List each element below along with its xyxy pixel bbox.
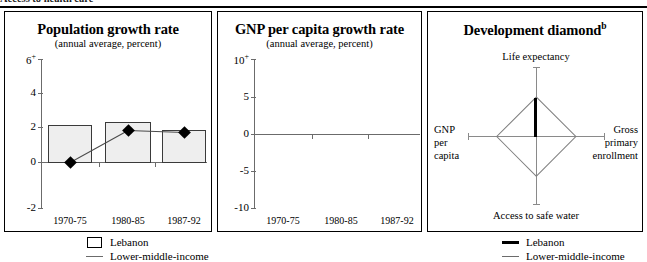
diamond-label-gnp-per-capita: GNP per capita [434,123,459,162]
diamond-label-access-to-safe-water: Access to safe water [428,209,644,222]
diamond-label-enroll-line2: primary [593,136,639,149]
y-tick-label-10: 10+ [220,52,249,66]
x-tick-label-1987-92: 1987-92 [153,215,215,226]
y-tick-neg2 [38,208,43,209]
diamond-label-enroll-line1: Gross [593,123,639,136]
y-tick-label-0: 0 [220,127,249,139]
legend-label-lower-middle-income: Lower-middle-income [526,249,625,262]
box-swatch-icon [78,237,110,248]
y-tick-label-0: 0 [11,155,36,167]
x-tick-label-1980-85: 1980-85 [310,215,372,226]
thin-line-swatch-icon [494,256,526,257]
y-axis-line-population [41,59,42,209]
y-tick-label-2: 2 [11,120,36,132]
lebanon-value-life-expectancy [534,98,537,137]
diamond-label-gnp-line1: GNP [434,123,459,136]
x-axis-line-gnp [254,134,420,135]
thick-line-swatch-icon [494,241,526,244]
diamond-label-life-expectancy: Life expectancy [428,50,644,63]
y-tick-0 [38,162,43,163]
x-tick-2 [368,134,369,139]
chart-panel-row: Population growth rate (annual average, … [4,11,643,232]
x-tick-label-1970-75: 1970-75 [252,215,314,226]
header-rule [0,6,647,8]
y-tick-4 [38,93,43,94]
plot-area-population: 6+ 4 2 0 -2 1970-75 1980-85 1987-92 [5,12,211,231]
legend-label-lebanon: Lebanon [110,235,148,249]
y-tick-0 [251,134,256,135]
y-tick-10 [251,59,256,60]
legend-left: Lebanon Lower-middle-income [78,235,209,262]
diamond-label-enroll-line3: enrollment [593,149,639,162]
x-tick-1 [312,134,313,139]
legend-item-lower-middle-income: Lower-middle-income [78,249,209,262]
cutoff-header-text: Access to health care [0,0,93,4]
y-tick-label-neg5: -5 [218,164,249,176]
legend-label-lebanon: Lebanon [526,235,564,249]
panel-development-diamond: Development diamondb Life expectancy GNP… [427,11,643,232]
diamond-axis-cap-bottom [533,204,540,205]
y-tick-neg10 [251,208,256,209]
x-tick-label-1987-92: 1987-92 [366,215,428,226]
diamond-label-gnp-line3: capita [434,149,459,162]
y-tick-label-4: 4 [11,86,36,98]
x-tick-1 [99,162,100,167]
legend-right: Lebanon Lower-middle-income [494,235,625,262]
diamond-label-gnp-line2: per [434,136,459,149]
legend-item-lower-middle-income: Lower-middle-income [494,249,625,262]
diamond-label-gross-primary-enrollment: Gross primary enrollment [593,123,639,162]
panel-population-growth-rate: Population growth rate (annual average, … [4,11,212,232]
panel-gnp-per-capita-growth-rate: GNP per capita growth rate (annual avera… [217,11,422,232]
y-tick-label-neg2: -2 [9,201,36,213]
legend-item-lebanon: Lebanon [494,235,625,249]
x-tick-2 [155,162,156,167]
diamond-axis-cap-top [533,67,540,68]
diamond-axis-cap-left [468,133,469,140]
y-tick-5 [251,97,256,98]
plot-area-gnp: 10+ 5 0 -5 -10 1970-75 1980-85 1987-92 [218,12,421,231]
x-tick-label-1970-75: 1970-75 [39,215,101,226]
x-tick-label-1980-85: 1980-85 [97,215,159,226]
thin-line-swatch-icon [78,256,110,257]
legend-item-lebanon: Lebanon [78,235,209,249]
y-tick-label-5: 5 [220,90,249,102]
plot-area-diamond: Life expectancy GNP per capita Gross pri… [428,12,642,231]
y-tick-6 [38,59,43,60]
y-tick-label-6: 6+ [11,52,36,66]
legend-label-lower-middle-income: Lower-middle-income [110,249,209,262]
y-tick-2 [38,127,43,128]
y-tick-label-neg10: -10 [216,201,249,213]
y-tick-neg5 [251,171,256,172]
